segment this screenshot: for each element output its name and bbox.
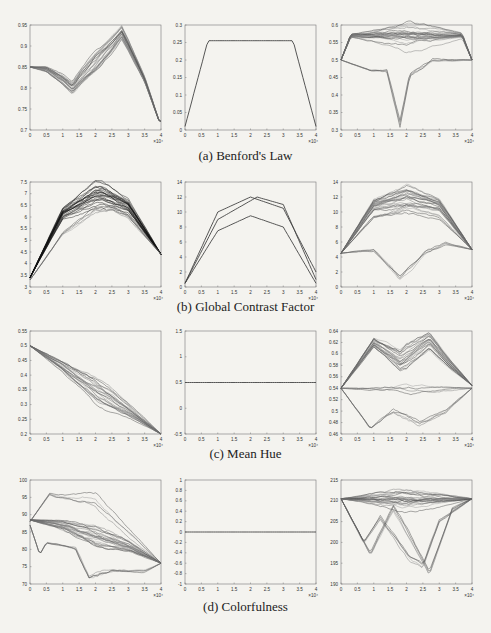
chart-panel-0-2: 00.511.522.533.540.30.350.40.450.50.550.… xyxy=(341,25,472,130)
x-tick-label: 1.5 xyxy=(76,290,83,295)
y-tick-label: 10 xyxy=(333,210,339,215)
x-tick-label: 4 xyxy=(315,290,318,295)
data-line xyxy=(30,32,161,122)
y-tick-label: 0 xyxy=(179,530,182,535)
y-tick-label: 6.5 xyxy=(21,203,28,208)
x-tick-label: 3.5 xyxy=(141,587,148,592)
x-tick-label: 0 xyxy=(340,133,343,138)
x-tick-label: 0 xyxy=(340,437,343,442)
data-line xyxy=(341,492,472,499)
x-tick-label: 1.5 xyxy=(387,587,394,592)
x-tick-label: 0 xyxy=(29,290,32,295)
y-tick-label: 4 xyxy=(179,255,182,260)
y-tick-label: 0.8 xyxy=(176,488,183,493)
x-tick-label: 1.5 xyxy=(76,437,83,442)
y-tick-label: 0.5 xyxy=(332,409,339,414)
y-tick-label: 210 xyxy=(330,498,338,503)
data-line xyxy=(30,33,161,122)
data-line xyxy=(30,209,161,280)
x-tick-label: 0 xyxy=(184,437,187,442)
y-tick-label: 195 xyxy=(330,561,338,566)
data-line xyxy=(185,41,316,127)
data-line xyxy=(30,37,161,122)
chart-panel-1-2: 00.511.522.533.5402468101214×10⁴ xyxy=(341,182,472,287)
x-tick-label: 2 xyxy=(405,133,408,138)
y-tick-label: 12 xyxy=(333,195,339,200)
y-tick-label: 0.5 xyxy=(332,58,339,63)
y-tick-label: 0.95 xyxy=(18,23,27,28)
x-tick-label: 0 xyxy=(184,133,187,138)
x-tick-label: 2.5 xyxy=(420,437,427,442)
y-tick-label: 0 xyxy=(335,285,338,290)
x-tick-label: 4 xyxy=(471,437,474,442)
y-tick-label: 0.54 xyxy=(329,386,338,391)
data-line xyxy=(30,39,161,121)
x-tick-label: 3 xyxy=(282,290,285,295)
y-tick-label: 85 xyxy=(22,530,28,535)
x-tick-label: 2.5 xyxy=(420,133,427,138)
x-multiplier-label: ×10⁴ xyxy=(464,593,474,598)
chart-panel-0-0: 00.511.522.533.540.70.750.80.850.90.95×1… xyxy=(30,25,161,130)
x-tick-label: 3 xyxy=(127,290,130,295)
y-tick-label: -0.8 xyxy=(174,571,182,576)
x-tick-label: 0 xyxy=(184,290,187,295)
y-tick-label: 6 xyxy=(24,215,27,220)
x-tick-label: 0.5 xyxy=(354,133,361,138)
y-tick-label: 10 xyxy=(177,210,183,215)
x-tick-label: 2.5 xyxy=(264,437,271,442)
y-tick-label: 1.5 xyxy=(176,329,183,334)
x-tick-label: 1.5 xyxy=(231,133,238,138)
x-tick-label: 2 xyxy=(405,437,408,442)
x-tick-label: 3.5 xyxy=(452,437,459,442)
data-line xyxy=(30,34,161,121)
data-line xyxy=(30,208,161,281)
data-line xyxy=(30,210,161,280)
data-line xyxy=(30,525,161,576)
plot-frame xyxy=(30,480,161,584)
x-tick-label: 3.5 xyxy=(141,290,148,295)
chart-panel-2-0: 00.511.522.533.540.20.250.30.350.40.450.… xyxy=(30,331,161,434)
data-line xyxy=(341,60,472,123)
x-tick-label: 4 xyxy=(471,290,474,295)
x-tick-label: 2 xyxy=(94,587,97,592)
y-tick-label: 0.6 xyxy=(332,23,339,28)
y-tick-label: 0.64 xyxy=(329,329,338,334)
y-tick-label: 1 xyxy=(179,478,182,483)
data-line xyxy=(185,216,316,283)
x-tick-label: 3 xyxy=(438,587,441,592)
y-tick-label: 0.5 xyxy=(176,380,183,385)
y-tick-label: 4.5 xyxy=(21,250,28,255)
data-line xyxy=(341,36,472,60)
x-tick-label: 1 xyxy=(372,133,375,138)
x-tick-label: 1.5 xyxy=(76,133,83,138)
x-tick-label: 2.5 xyxy=(109,587,116,592)
x-tick-label: 0.5 xyxy=(198,587,205,592)
x-tick-label: 3.5 xyxy=(452,290,459,295)
x-tick-label: 1 xyxy=(216,437,219,442)
y-tick-label: 70 xyxy=(22,582,28,587)
x-tick-label: 4 xyxy=(315,133,318,138)
y-tick-label: 0 xyxy=(179,406,182,411)
x-tick-label: 1 xyxy=(216,587,219,592)
y-tick-label: 14 xyxy=(333,180,339,185)
x-tick-label: 2 xyxy=(249,290,252,295)
x-tick-label: 4 xyxy=(160,133,163,138)
x-tick-label: 3.5 xyxy=(296,290,303,295)
y-tick-label: 0.35 xyxy=(329,110,338,115)
y-tick-label: 0.62 xyxy=(329,340,338,345)
y-tick-label: 8 xyxy=(335,225,338,230)
x-tick-label: 1 xyxy=(216,290,219,295)
y-tick-label: 0.46 xyxy=(329,432,338,437)
y-tick-label: 4 xyxy=(24,261,27,266)
x-tick-label: 3 xyxy=(127,587,130,592)
y-tick-label: 0.2 xyxy=(21,432,28,437)
y-tick-label: 0.2 xyxy=(176,519,183,524)
x-multiplier-label: ×10⁴ xyxy=(153,593,163,598)
x-tick-label: 0.5 xyxy=(43,290,50,295)
y-tick-label: -0.4 xyxy=(174,550,182,555)
chart-panel-2-1: 00.511.522.533.54-0.500.511.5×10⁴ xyxy=(185,331,316,434)
x-tick-label: 2.5 xyxy=(264,290,271,295)
data-line xyxy=(341,37,472,60)
y-tick-label: 8 xyxy=(179,225,182,230)
x-tick-label: 4 xyxy=(160,290,163,295)
